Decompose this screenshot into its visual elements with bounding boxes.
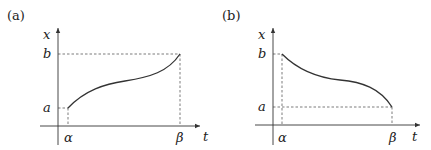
panel-b-label: (b) bbox=[222, 8, 240, 23]
panel-a-tick-alpha: α bbox=[64, 130, 73, 145]
panel-b-tick-b: b bbox=[258, 46, 266, 61]
panel-a-tick-beta: β bbox=[175, 130, 184, 145]
panel-b-t-axis-label: t bbox=[412, 129, 418, 144]
panel-a-y-axis-label: x bbox=[43, 27, 51, 42]
panel-a-t-axis-label: t bbox=[203, 129, 209, 144]
panel-b-curve bbox=[282, 54, 392, 107]
panel-a: (a) x t b a α β bbox=[7, 8, 209, 145]
panel-a-tick-b: b bbox=[43, 46, 51, 61]
panel-a-curve bbox=[68, 54, 180, 108]
panel-b-tick-alpha: α bbox=[278, 130, 287, 145]
panel-a-label: (a) bbox=[7, 8, 25, 23]
panel-b-tick-beta: β bbox=[388, 130, 397, 145]
panel-b-y-axis-label: x bbox=[258, 27, 266, 42]
panel-b-tick-a: a bbox=[258, 99, 266, 114]
diagram: (a) x t b a α β (b) x t b a α β bbox=[0, 0, 431, 150]
panel-b: (b) x t b a α β bbox=[222, 8, 420, 145]
panel-a-tick-a: a bbox=[43, 100, 51, 115]
